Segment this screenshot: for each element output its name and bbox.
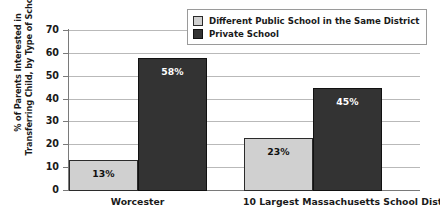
x-tick-label-ten-largest: 10 Largest Massachusetts School District…: [243, 196, 382, 207]
y-tick-label-70: 70: [33, 24, 59, 35]
y-tickmark-20: [63, 144, 68, 145]
y-tick-label-40: 40: [33, 93, 59, 104]
legend-item-private[interactable]: Private School: [193, 27, 419, 40]
y-tick-label-0: 0: [33, 184, 59, 195]
y-tickmark-0: [63, 190, 68, 191]
gridline-60: [68, 53, 420, 54]
legend-swatch-public-icon: [193, 16, 203, 26]
bar-label-worcester-public: 13%: [70, 168, 137, 179]
bar-label-worcester-private: 58%: [139, 66, 206, 77]
y-tickmark-70: [63, 30, 68, 31]
x-tick-label-worcester: Worcester: [68, 196, 207, 207]
bar-chart: % of Parents Interested in Transferring …: [0, 0, 440, 220]
legend-swatch-private-icon: [193, 29, 203, 39]
y-tickmark-30: [63, 121, 68, 122]
y-axis-title: % of Parents Interested in Transferring …: [13, 0, 34, 158]
bar-worcester-private[interactable]: 58%: [138, 58, 207, 191]
y-axis-title-line2: Transferring Child, by Type of School: [23, 0, 34, 158]
y-tick-label-30: 30: [33, 115, 59, 126]
y-tickmark-50: [63, 76, 68, 77]
bar-ten-largest-private[interactable]: 45%: [313, 88, 382, 191]
bar-label-ten-largest-public: 23%: [245, 146, 312, 157]
gridline-50: [68, 76, 420, 77]
bar-worcester-public[interactable]: 13%: [69, 160, 138, 191]
legend: Different Public School in the Same Dist…: [187, 9, 427, 45]
bar-ten-largest-public[interactable]: 23%: [244, 138, 313, 191]
legend-label-public: Different Public School in the Same Dist…: [209, 16, 419, 26]
legend-item-public[interactable]: Different Public School in the Same Dist…: [193, 14, 419, 27]
y-tickmark-10: [63, 167, 68, 168]
y-tick-label-60: 60: [33, 47, 59, 58]
legend-label-private: Private School: [209, 29, 279, 39]
y-axis-title-line1: % of Parents Interested in: [13, 0, 24, 158]
y-tickmark-40: [63, 99, 68, 100]
y-tickmark-60: [63, 53, 68, 54]
bar-label-ten-largest-private: 45%: [314, 96, 381, 107]
y-tick-label-20: 20: [33, 138, 59, 149]
y-tick-label-10: 10: [33, 161, 59, 172]
y-tick-label-50: 50: [33, 70, 59, 81]
